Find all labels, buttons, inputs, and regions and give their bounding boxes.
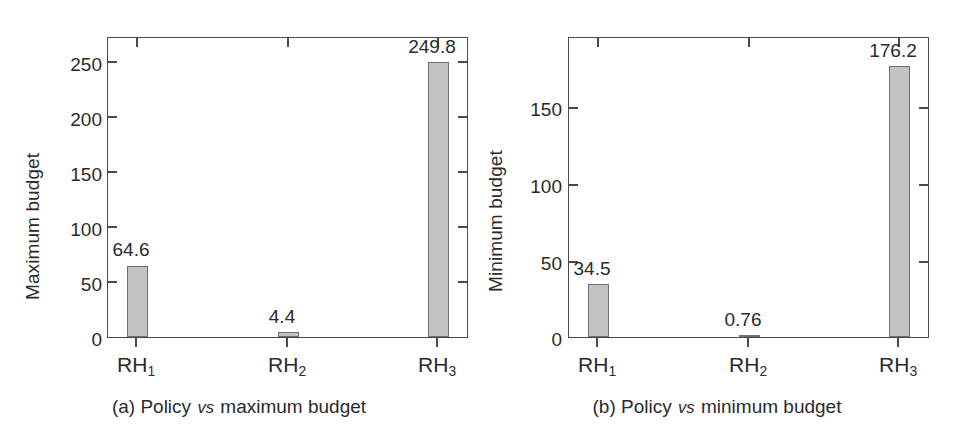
caption-vs: vs <box>196 398 215 417</box>
figure-container: Maximum budget 0 50 100 150 200 250 <box>0 0 956 440</box>
x-tick-mark <box>135 338 137 347</box>
y-tick-label: 150 <box>70 165 102 184</box>
x-tick-mark-top <box>287 38 289 47</box>
x-tick-label-sub: 1 <box>148 363 156 379</box>
x-tick-label-text: RH <box>578 353 608 376</box>
y-tick-mark <box>569 107 578 109</box>
chart-panel-b: Minimum budget 0 50 100 150 <box>478 0 956 440</box>
caption-b: (b) Policy vs minimum budget <box>478 396 956 418</box>
y-tick-mark-right <box>458 281 467 283</box>
plot-area-a <box>107 37 468 338</box>
x-tick-mark <box>286 338 288 347</box>
x-tick-label-sub: 2 <box>299 363 307 379</box>
bar-value-rh2: 0.76 <box>708 310 778 329</box>
y-tick-mark-right <box>919 261 928 263</box>
bar-rh3 <box>889 66 910 337</box>
x-tick-label-text: RH <box>729 353 759 376</box>
x-tick-label-rh2: RH2 <box>698 354 798 375</box>
y-tick-mark-right <box>919 107 928 109</box>
x-tick-label-rh3: RH3 <box>387 354 487 375</box>
x-tick-mark <box>897 338 899 347</box>
x-tick-mark-top <box>748 38 750 47</box>
x-tick-mark-top <box>597 38 599 47</box>
y-tick-mark-right <box>458 171 467 173</box>
x-tick-label-rh1: RH1 <box>547 354 647 375</box>
caption-suffix: minimum budget <box>701 396 841 417</box>
plot-area-b <box>568 37 929 338</box>
x-tick-label-sub: 1 <box>609 363 617 379</box>
y-tick-mark <box>108 226 117 228</box>
x-tick-label-text: RH <box>268 353 298 376</box>
x-tick-label-text: RH <box>879 353 909 376</box>
bar-value-rh3: 176.2 <box>854 41 932 60</box>
x-tick-mark-top <box>136 38 138 47</box>
x-tick-label-sub: 3 <box>910 363 918 379</box>
y-axis-label-a: Maximum budget <box>22 153 44 300</box>
y-tick-label: 100 <box>530 177 562 196</box>
x-tick-label-text: RH <box>117 353 147 376</box>
y-tick-label: 0 <box>551 330 562 349</box>
y-tick-mark <box>108 61 117 63</box>
bar-rh2 <box>278 332 299 337</box>
x-tick-label-rh1: RH1 <box>86 354 186 375</box>
y-tick-mark <box>108 116 117 118</box>
x-tick-mark <box>596 338 598 347</box>
y-tick-mark-right <box>458 116 467 118</box>
y-tick-label: 150 <box>530 100 562 119</box>
y-tick-label: 0 <box>91 330 102 349</box>
bar-rh2 <box>739 335 760 337</box>
chart-panel-a: Maximum budget 0 50 100 150 200 250 <box>0 0 478 440</box>
y-tick-mark <box>569 184 578 186</box>
bar-value-rh2: 4.4 <box>247 307 317 326</box>
bar-value-rh1: 34.5 <box>557 259 627 278</box>
x-tick-label-sub: 2 <box>760 363 768 379</box>
caption-prefix: (b) Policy <box>593 396 672 417</box>
y-tick-label: 200 <box>70 110 102 129</box>
y-tick-mark-right <box>458 226 467 228</box>
x-tick-label-text: RH <box>418 353 448 376</box>
caption-prefix: (a) Policy <box>112 396 191 417</box>
y-tick-mark-right <box>458 61 467 63</box>
y-tick-mark <box>108 171 117 173</box>
x-tick-label-rh2: RH2 <box>237 354 337 375</box>
bar-rh1 <box>127 266 148 337</box>
y-tick-mark <box>108 281 117 283</box>
x-tick-mark <box>747 338 749 347</box>
bar-rh1 <box>588 284 609 337</box>
x-tick-label-rh3: RH3 <box>848 354 948 375</box>
y-tick-label: 250 <box>70 55 102 74</box>
bar-rh3 <box>428 62 449 337</box>
y-tick-mark-right <box>919 184 928 186</box>
y-tick-label: 100 <box>70 220 102 239</box>
x-tick-label-sub: 3 <box>449 363 457 379</box>
bar-value-rh3: 249.8 <box>393 37 471 56</box>
caption-a: (a) Policy vs maximum budget <box>0 396 478 418</box>
y-tick-label: 50 <box>81 275 102 294</box>
caption-vs: vs <box>677 398 696 417</box>
x-tick-mark <box>436 338 438 347</box>
bar-value-rh1: 64.6 <box>96 240 166 259</box>
caption-suffix: maximum budget <box>220 396 366 417</box>
